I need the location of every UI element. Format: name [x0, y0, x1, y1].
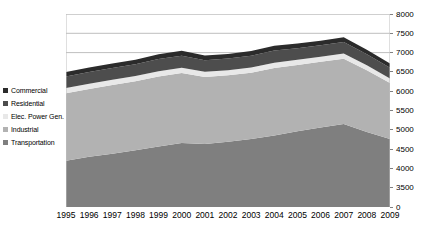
- y-axis-tick: 5500: [390, 106, 427, 116]
- x-tick-label: 2007: [334, 209, 353, 221]
- y-tick-mark: [390, 207, 393, 208]
- y-tick-mark: [390, 168, 393, 169]
- x-tick-label: 1996: [80, 209, 99, 221]
- legend-item-transportation[interactable]: Transportation: [3, 136, 65, 149]
- y-axis-tick: 4500: [390, 144, 427, 154]
- x-axis: 1995199619971998199920002001200220032004…: [66, 209, 390, 225]
- chart-legend: Commercial Residential Elec. Power Gen. …: [3, 84, 65, 149]
- y-axis-tick: 5000: [390, 125, 427, 135]
- y-axis-tick: 4000: [390, 163, 427, 173]
- y-tick-mark: [390, 14, 393, 15]
- y-axis: 8000750070006500600055005000450040003500…: [390, 0, 427, 229]
- x-tick-label: 1998: [126, 209, 145, 221]
- y-tick-mark: [390, 33, 393, 34]
- y-axis-tick: 7000: [390, 48, 427, 58]
- x-tick-label: 1995: [57, 209, 76, 221]
- y-tick-label: 7500: [396, 29, 414, 38]
- legend-swatch-elec-power-gen: [3, 114, 8, 119]
- y-tick-mark: [390, 187, 393, 188]
- x-tick-label: 2008: [357, 209, 376, 221]
- y-tick-label: 5000: [396, 125, 414, 134]
- y-axis-tick: 7500: [390, 28, 427, 38]
- x-tick-label: 2000: [172, 209, 191, 221]
- y-tick-label: 8000: [396, 10, 414, 19]
- x-tick-label: 2005: [288, 209, 307, 221]
- x-tick-label: 2002: [219, 209, 238, 221]
- legend-label-industrial: Industrial: [11, 126, 38, 134]
- y-tick-label: 4500: [396, 145, 414, 154]
- plot-svg: [66, 14, 390, 207]
- y-axis-tick: 8000: [390, 9, 427, 19]
- y-tick-mark: [390, 71, 393, 72]
- legend-item-elec-power-gen[interactable]: Elec. Power Gen.: [3, 110, 65, 123]
- y-axis-tick: 6000: [390, 86, 427, 96]
- y-tick-label: 5500: [396, 106, 414, 115]
- y-tick-label: 4000: [396, 164, 414, 173]
- x-tick-label: 1999: [149, 209, 168, 221]
- x-tick-label: 2001: [195, 209, 214, 221]
- legend-item-industrial[interactable]: Industrial: [3, 123, 65, 136]
- legend-label-commercial: Commercial: [11, 87, 47, 95]
- x-tick-label: 2009: [381, 209, 400, 221]
- legend-label-transportation: Transportation: [11, 139, 54, 147]
- legend-swatch-transportation: [3, 140, 8, 145]
- x-tick-label: 1997: [103, 209, 122, 221]
- legend-item-commercial[interactable]: Commercial: [3, 84, 65, 97]
- legend-swatch-residential: [3, 101, 8, 106]
- y-tick-mark: [390, 110, 393, 111]
- y-tick-mark: [390, 52, 393, 53]
- y-tick-label: 3500: [396, 183, 414, 192]
- legend-swatch-commercial: [3, 88, 8, 93]
- y-tick-mark: [390, 149, 393, 150]
- y-tick-mark: [390, 91, 393, 92]
- plot-area: [66, 14, 390, 207]
- legend-swatch-industrial: [3, 127, 8, 132]
- y-axis-tick: 3500: [390, 183, 427, 193]
- stacked-area-chart: Commercial Residential Elec. Power Gen. …: [0, 0, 427, 229]
- x-tick-label: 2006: [311, 209, 330, 221]
- y-tick-label: 6000: [396, 87, 414, 96]
- legend-item-residential[interactable]: Residential: [3, 97, 65, 110]
- legend-label-elec-power-gen: Elec. Power Gen.: [11, 113, 64, 121]
- y-axis-tick: 6500: [390, 67, 427, 77]
- legend-label-residential: Residential: [11, 100, 45, 108]
- x-tick-label: 2003: [242, 209, 261, 221]
- x-tick-label: 2004: [265, 209, 284, 221]
- y-tick-mark: [390, 129, 393, 130]
- y-tick-label: 6500: [396, 67, 414, 76]
- y-tick-label: 7000: [396, 48, 414, 57]
